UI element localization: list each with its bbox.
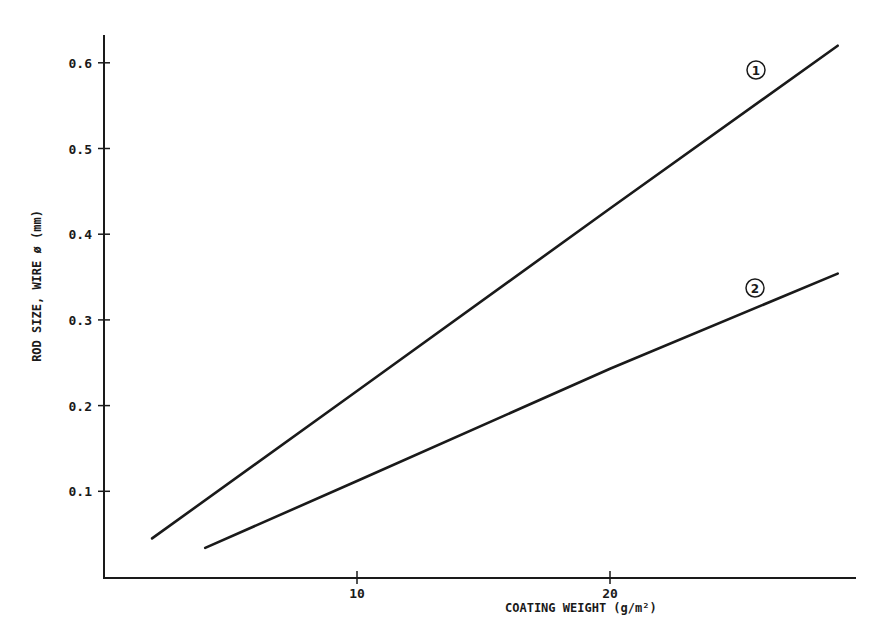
x-axis-label: COATING WEIGHT (g/m²) — [505, 601, 657, 615]
x-tick-label: 10 — [349, 586, 365, 601]
x-tick-label: 20 — [602, 586, 618, 601]
series-line-1 — [152, 46, 838, 539]
y-tick-label: 0.1 — [69, 484, 93, 499]
series-label-1: 1 — [752, 64, 760, 78]
y-axis-label: ROD SIZE, WIRE ø (mm) — [30, 210, 44, 362]
y-tick-label: 0.5 — [69, 142, 92, 157]
y-tick-label: 0.4 — [69, 227, 93, 242]
x-ticks: 1020 — [349, 571, 618, 601]
y-tick-label: 0.3 — [69, 313, 92, 328]
y-tick-label: 0.2 — [69, 399, 92, 414]
axes — [103, 35, 856, 578]
series-line-2 — [205, 274, 838, 548]
chart: 0.10.20.30.40.50.6 1020 12 COATING WEIGH… — [0, 0, 882, 638]
series-lines: 12 — [152, 46, 838, 548]
y-tick-label: 0.6 — [69, 56, 93, 71]
series-label-2: 2 — [751, 282, 759, 296]
